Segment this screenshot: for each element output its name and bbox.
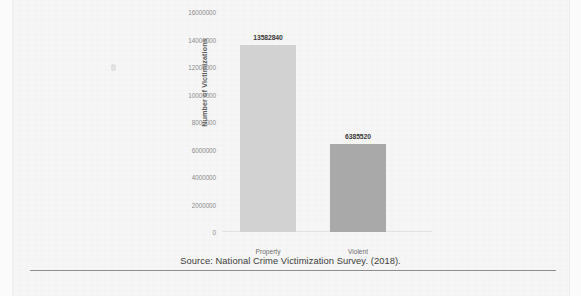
y-axis-tick-label: 0 — [213, 229, 216, 236]
bar-rect[interactable] — [240, 45, 296, 232]
bar-chart-figure: Number of Victimizations 160000001400000… — [150, 0, 440, 250]
source-caption: Source: National Crime Victimization Sur… — [0, 255, 581, 266]
y-axis-tick-label: 4000000 — [192, 174, 216, 181]
y-axis-tick-label: 12000000 — [188, 64, 216, 71]
bar-value-label: 13582840 — [240, 34, 296, 41]
y-axis-tick-label: 6000000 — [192, 146, 216, 153]
y-axis-tick-label: 8000000 — [192, 119, 216, 126]
bar-rect[interactable] — [330, 144, 386, 232]
x-axis-category-label: Violent — [330, 248, 386, 255]
y-axis-tick-label: 14000000 — [188, 36, 216, 43]
x-axis-category-label: Property — [240, 248, 296, 255]
scan-artifact — [111, 64, 116, 71]
y-axis-tick-label: 16000000 — [188, 9, 216, 16]
y-axis-tick-labels: 1600000014000000120000001000000080000006… — [168, 12, 216, 232]
bar-value-label: 6385520 — [330, 133, 386, 140]
caption-divider-rule — [30, 270, 556, 271]
plot-area: 13582840Property6385520Violent — [222, 12, 432, 232]
y-axis-tick-label: 2000000 — [192, 201, 216, 208]
y-axis-tick-label: 10000000 — [188, 91, 216, 98]
